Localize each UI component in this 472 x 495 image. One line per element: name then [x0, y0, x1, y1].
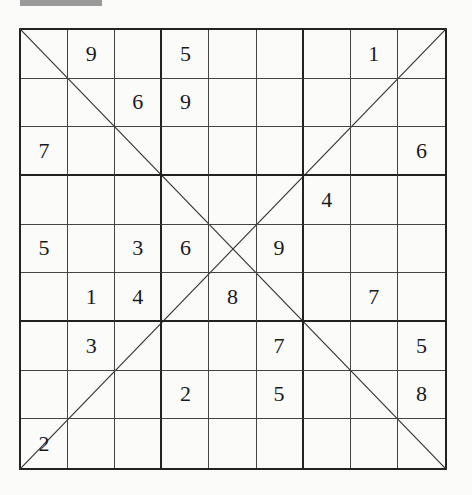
sudoku-cell[interactable]: [257, 79, 304, 128]
sudoku-cell[interactable]: [304, 127, 351, 176]
sudoku-cell[interactable]: [209, 322, 256, 371]
sudoku-cell[interactable]: [162, 419, 209, 468]
sudoku-cell[interactable]: [21, 30, 68, 79]
sudoku-cell[interactable]: 6: [162, 225, 209, 274]
sudoku-cell[interactable]: 1: [68, 273, 115, 322]
sudoku-cell[interactable]: 5: [257, 371, 304, 420]
sudoku-cell[interactable]: [68, 176, 115, 225]
sudoku-cell[interactable]: 7: [351, 273, 398, 322]
sudoku-cell[interactable]: [21, 273, 68, 322]
sudoku-cell[interactable]: [209, 127, 256, 176]
sudoku-cell[interactable]: 6: [398, 127, 445, 176]
sudoku-cell[interactable]: 5: [21, 225, 68, 274]
sudoku-cell[interactable]: [68, 419, 115, 468]
sudoku-cell[interactable]: [209, 371, 256, 420]
sudoku-cell[interactable]: [21, 79, 68, 128]
sudoku-cell[interactable]: [162, 127, 209, 176]
sudoku-cell[interactable]: [351, 371, 398, 420]
sudoku-cell[interactable]: [209, 419, 256, 468]
sudoku-cell[interactable]: [398, 30, 445, 79]
sudoku-cell[interactable]: [21, 371, 68, 420]
sudoku-cell[interactable]: [398, 79, 445, 128]
sudoku-cell[interactable]: [115, 419, 162, 468]
sudoku-cell[interactable]: [351, 127, 398, 176]
sudoku-cell[interactable]: [68, 79, 115, 128]
sudoku-cell[interactable]: [351, 79, 398, 128]
sudoku-cell[interactable]: [351, 176, 398, 225]
sudoku-cell[interactable]: [21, 176, 68, 225]
sudoku-cell[interactable]: 3: [68, 322, 115, 371]
sudoku-cell[interactable]: 8: [398, 371, 445, 420]
sudoku-cell[interactable]: [398, 273, 445, 322]
sudoku-cell[interactable]: [304, 371, 351, 420]
sudoku-cell[interactable]: [257, 30, 304, 79]
sudoku-cell[interactable]: 2: [162, 371, 209, 420]
sudoku-cell[interactable]: 9: [162, 79, 209, 128]
sudoku-cell[interactable]: 7: [21, 127, 68, 176]
sudoku-cell[interactable]: [351, 225, 398, 274]
sudoku-cell[interactable]: 5: [398, 322, 445, 371]
sudoku-cell[interactable]: 3: [115, 225, 162, 274]
sudoku-cell[interactable]: [351, 419, 398, 468]
sudoku-cell[interactable]: [304, 79, 351, 128]
sudoku-cell[interactable]: [209, 79, 256, 128]
sudoku-cell[interactable]: 5: [162, 30, 209, 79]
sudoku-cell[interactable]: [304, 30, 351, 79]
sudoku-cell[interactable]: [257, 273, 304, 322]
sudoku-cell[interactable]: [304, 322, 351, 371]
sudoku-cell[interactable]: [257, 176, 304, 225]
sudoku-cell[interactable]: [257, 127, 304, 176]
sudoku-cell[interactable]: [257, 419, 304, 468]
sudoku-cell[interactable]: [209, 225, 256, 274]
sudoku-cell[interactable]: [304, 225, 351, 274]
sudoku-cell[interactable]: [162, 273, 209, 322]
sudoku-cell[interactable]: [115, 322, 162, 371]
sudoku-cell[interactable]: [68, 371, 115, 420]
sudoku-cell[interactable]: [115, 127, 162, 176]
sudoku-cell[interactable]: [398, 419, 445, 468]
sudoku-cell[interactable]: [304, 273, 351, 322]
sudoku-cell[interactable]: [115, 30, 162, 79]
sudoku-cell[interactable]: 8: [209, 273, 256, 322]
sudoku-cell[interactable]: 7: [257, 322, 304, 371]
header-bar: [20, 0, 102, 6]
sudoku-cell[interactable]: 9: [257, 225, 304, 274]
sudoku-cell[interactable]: 4: [115, 273, 162, 322]
sudoku-cell[interactable]: [115, 176, 162, 225]
sudoku-cell[interactable]: 9: [68, 30, 115, 79]
sudoku-cell[interactable]: [209, 176, 256, 225]
sudoku-cell[interactable]: 2: [21, 419, 68, 468]
sudoku-cell[interactable]: [209, 30, 256, 79]
sudoku-cell[interactable]: [398, 176, 445, 225]
sudoku-cell[interactable]: [115, 371, 162, 420]
sudoku-cell[interactable]: 6: [115, 79, 162, 128]
sudoku-cell[interactable]: [68, 225, 115, 274]
sudoku-cell[interactable]: [162, 322, 209, 371]
sudoku-cell[interactable]: [162, 176, 209, 225]
sudoku-cell[interactable]: [21, 322, 68, 371]
sudoku-cell[interactable]: [304, 419, 351, 468]
sudoku-grid: 95169764536914873752582: [19, 28, 447, 470]
sudoku-cell[interactable]: 4: [304, 176, 351, 225]
sudoku-cell[interactable]: [398, 225, 445, 274]
sudoku-cell[interactable]: 1: [351, 30, 398, 79]
sudoku-cell[interactable]: [351, 322, 398, 371]
sudoku-cell[interactable]: [68, 127, 115, 176]
